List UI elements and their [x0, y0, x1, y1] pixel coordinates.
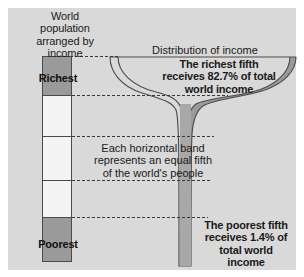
population-column-title: World population arranged by income	[20, 10, 110, 59]
poorest-fifth-callout: The poorest fifth receives 1.4% of total…	[194, 219, 298, 268]
population-band-second	[43, 96, 72, 137]
poorest-band-label: Poorest	[28, 238, 88, 250]
population-band-fourth	[43, 181, 72, 218]
equal-fifth-band-note: Each horizontal band represents an equal…	[86, 142, 220, 179]
champagne-glass-income-distribution-figure: World population arranged by income Dist…	[0, 0, 304, 277]
population-band-third	[43, 137, 72, 181]
distribution-title: Distribution of income	[142, 44, 268, 56]
richest-fifth-callout: The richest fifth receives 82.7% of tota…	[146, 58, 292, 95]
richest-band-label: Richest	[28, 72, 88, 84]
income-distribution-stem	[180, 104, 191, 266]
